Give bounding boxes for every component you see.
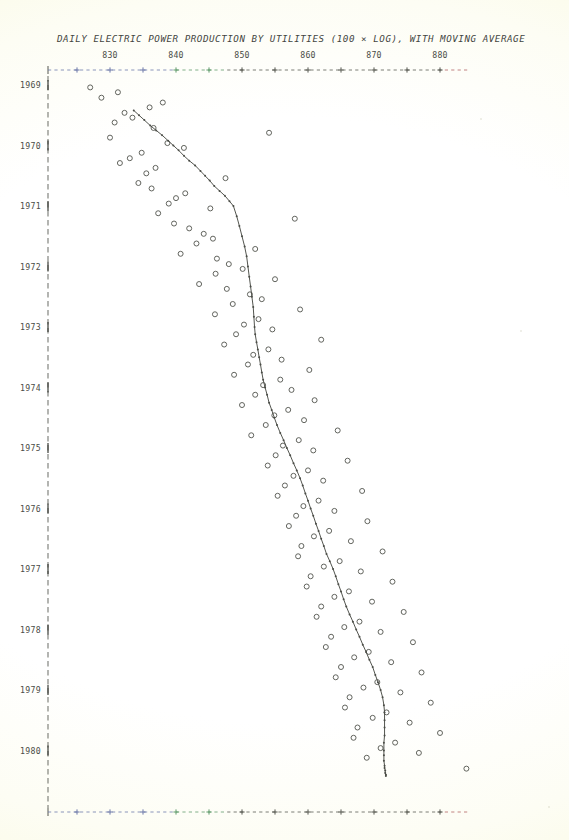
top-axis	[48, 66, 467, 74]
paper-speck	[520, 330, 522, 332]
moving-average-layer	[133, 109, 387, 777]
scatter-plot-canvas	[0, 0, 569, 840]
paper-speck	[480, 118, 482, 120]
chart-page: DAILY ELECTRIC POWER PRODUCTION BY UTILI…	[0, 0, 569, 840]
paper-speck	[548, 806, 550, 808]
bottom-axis	[48, 808, 467, 816]
